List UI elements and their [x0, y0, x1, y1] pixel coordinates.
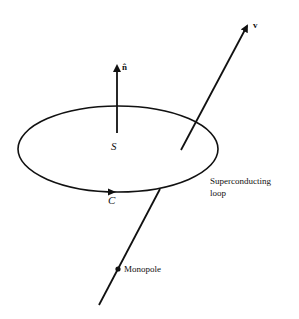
velocity-label: v	[253, 21, 258, 30]
monopole-trajectory-lower	[99, 189, 160, 305]
normal-vector-label: n̂	[122, 63, 127, 72]
loop-label-line2: loop	[210, 189, 226, 198]
monopole-dot	[115, 266, 120, 271]
diagram-canvas: n̂ v S C Superconducting loop Monopole	[0, 0, 299, 319]
loop-label-line1: Superconducting	[210, 177, 271, 186]
velocity-arrow	[181, 26, 247, 150]
monopole-label: Monopole	[124, 265, 161, 274]
surface-label: S	[111, 141, 117, 152]
contour-label: C	[108, 195, 115, 206]
superconducting-loop	[18, 106, 218, 192]
